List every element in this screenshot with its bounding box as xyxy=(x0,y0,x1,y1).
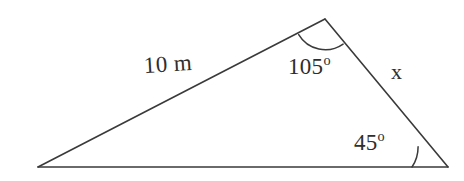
angle-right-value: 45 xyxy=(354,130,378,155)
angle-arc-apex xyxy=(299,35,343,50)
triangle-figure xyxy=(0,0,464,181)
triangle-side-x xyxy=(325,19,448,167)
degree-symbol-icon: o xyxy=(323,52,330,68)
triangle-side-10m xyxy=(38,19,325,167)
side-length-label-10m: 10 m xyxy=(143,51,193,77)
degree-symbol-icon: o xyxy=(378,128,385,144)
side-length-label-x: x xyxy=(391,61,402,83)
angle-arc-right xyxy=(412,147,418,167)
diagram-canvas: 10 m 105o x 45o xyxy=(0,0,464,181)
angle-label-105: 105o xyxy=(288,55,331,78)
angle-label-45: 45o xyxy=(354,131,385,154)
angle-apex-value: 105 xyxy=(288,54,323,79)
